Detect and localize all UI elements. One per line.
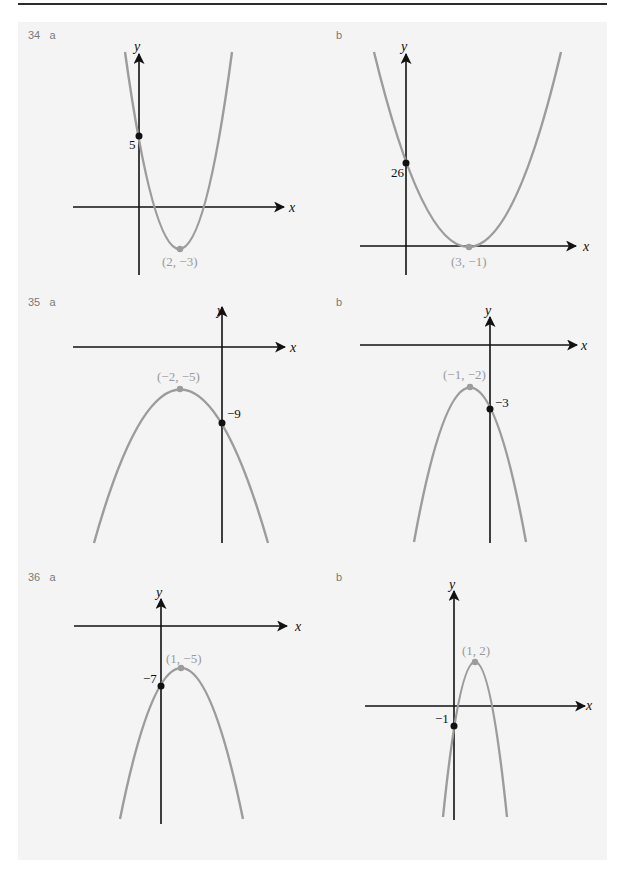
y-intercept-point bbox=[136, 133, 143, 140]
vertex-label: (1, −5) bbox=[166, 651, 202, 666]
vertex-label: (1, 2) bbox=[462, 643, 490, 658]
y-intercept-label: −3 bbox=[495, 395, 509, 410]
y-axis-label: y bbox=[447, 577, 456, 592]
y-axis-label: y bbox=[215, 303, 224, 318]
parabola-curve bbox=[374, 52, 561, 247]
graph-34a: x y 5 (2, −3) bbox=[73, 39, 296, 275]
parabola-curve bbox=[94, 390, 268, 544]
vertex-point bbox=[466, 244, 472, 250]
parabola-curve bbox=[443, 662, 507, 817]
y-intercept-label: 26 bbox=[391, 165, 405, 180]
y-axis-label: y bbox=[399, 39, 408, 54]
x-axis-label: x bbox=[289, 340, 297, 355]
graphs-canvas: x y 5 (2, −3) x y 26 (3, −1) x y −9 (−2,… bbox=[0, 0, 625, 872]
x-axis-label: x bbox=[582, 239, 590, 254]
vertex-point bbox=[177, 246, 183, 252]
y-intercept-label: 5 bbox=[129, 137, 136, 152]
x-axis-label: x bbox=[580, 338, 588, 353]
vertex-point bbox=[472, 659, 478, 665]
graph-36a: x y −7 (1, −5) bbox=[74, 585, 302, 824]
x-axis-label: x bbox=[585, 698, 593, 713]
vertex-point bbox=[467, 384, 473, 390]
graph-36b: x y −1 (1, 2) bbox=[365, 577, 593, 820]
y-intercept-label: −9 bbox=[227, 406, 241, 421]
y-axis-label: y bbox=[483, 303, 492, 318]
y-intercept-point bbox=[487, 406, 494, 413]
vertex-label: (−2, −5) bbox=[157, 369, 200, 384]
parabola-curve bbox=[120, 668, 243, 819]
y-intercept-label: −1 bbox=[435, 711, 449, 726]
y-axis-label: y bbox=[154, 585, 163, 600]
x-axis-label: x bbox=[294, 619, 302, 634]
vertex-label: (2, −3) bbox=[162, 254, 198, 269]
y-intercept-point bbox=[219, 420, 226, 427]
parabola-curve bbox=[125, 52, 232, 249]
y-intercept-point bbox=[158, 683, 165, 690]
graph-35a: x y −9 (−2, −5) bbox=[73, 303, 297, 543]
parabola-curve bbox=[414, 388, 526, 543]
vertex-point bbox=[177, 386, 183, 392]
graph-35b: x y −3 (−1, −2) bbox=[360, 303, 588, 543]
vertex-label: (−1, −2) bbox=[443, 367, 486, 382]
x-axis-label: x bbox=[288, 200, 296, 215]
graph-34b: x y 26 (3, −1) bbox=[360, 39, 590, 275]
vertex-label: (3, −1) bbox=[451, 254, 487, 269]
y-axis-label: y bbox=[132, 39, 141, 54]
y-intercept-point bbox=[451, 723, 458, 730]
y-intercept-label: −7 bbox=[143, 671, 157, 686]
